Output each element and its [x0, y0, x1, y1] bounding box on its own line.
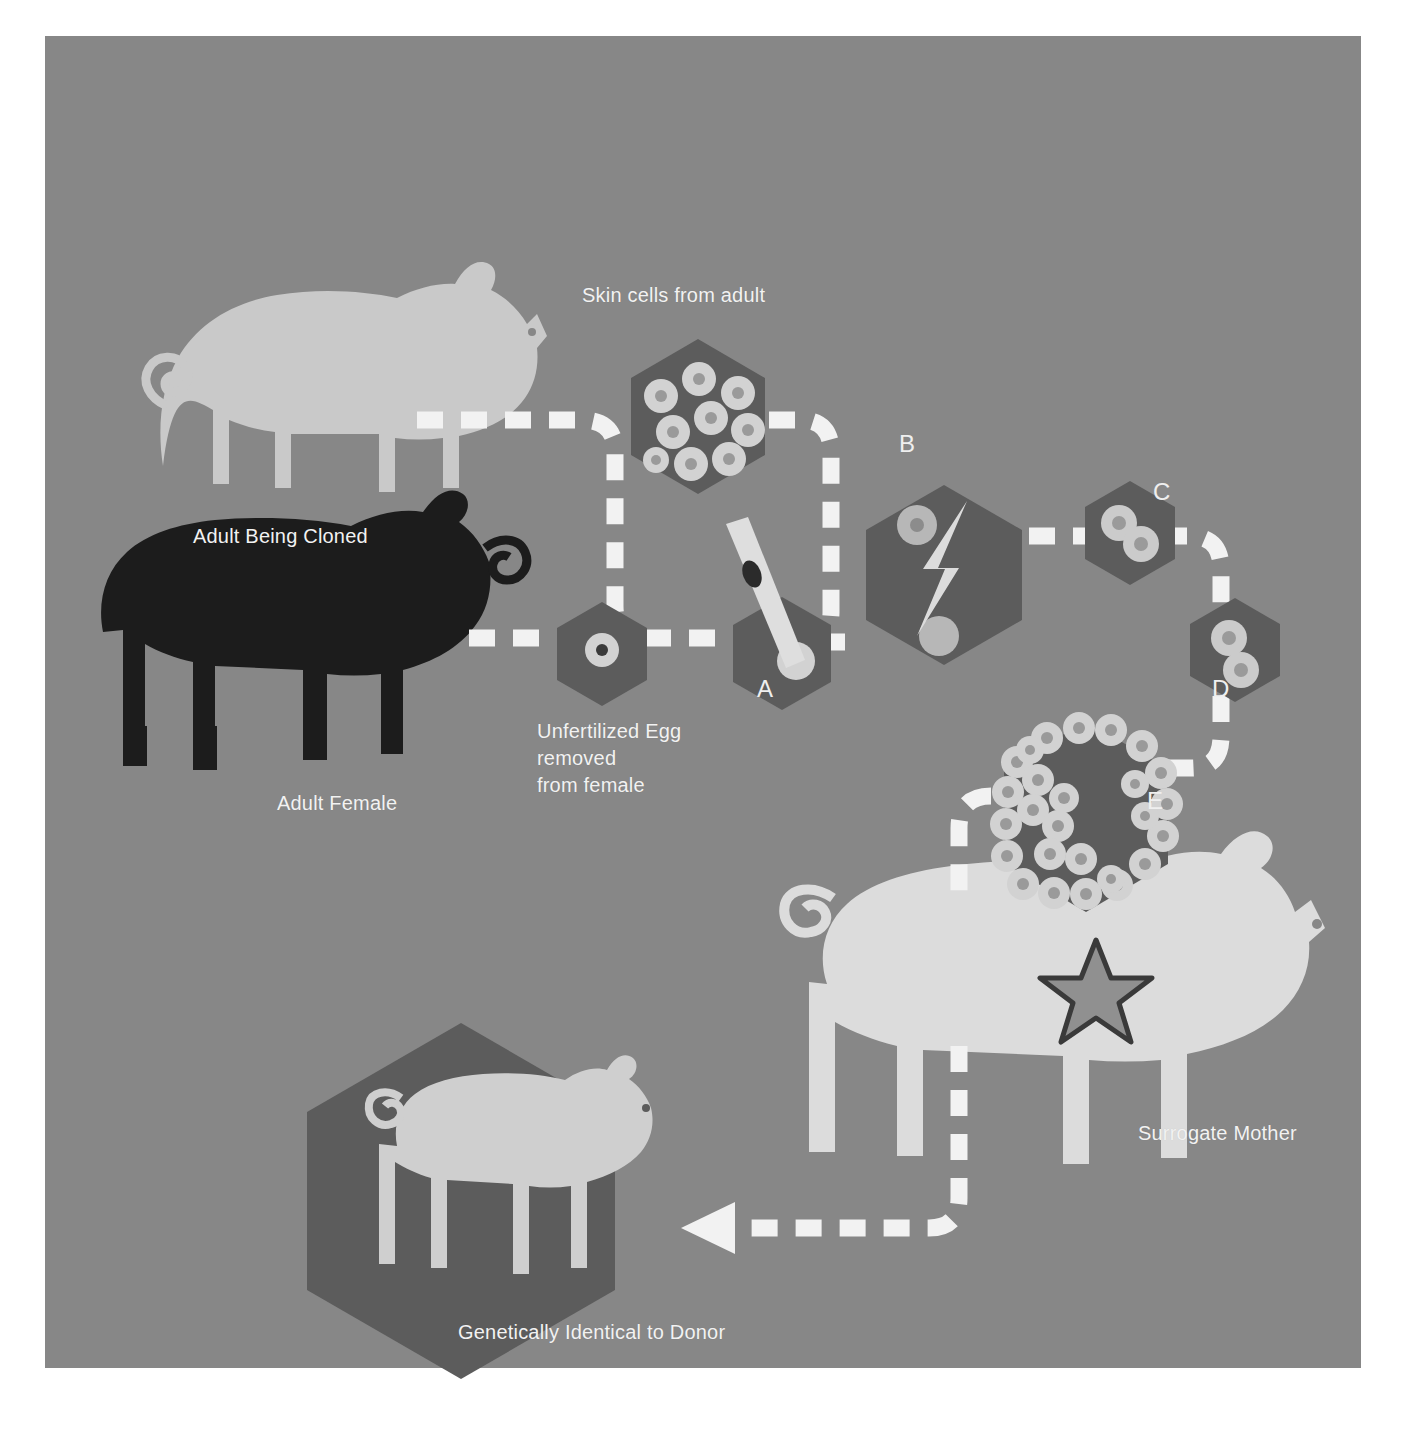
step-letter-b: B: [899, 431, 915, 457]
label-unfertilized-egg: Unfertilized Egg removed from female: [537, 718, 681, 799]
nuclear-transfer-hexagon: [726, 517, 831, 710]
four-cell-stage-hexagon: [1190, 598, 1280, 702]
diagram-canvas: Skin cells from adult Adult Being Cloned…: [45, 36, 1361, 1368]
step-letter-e: E: [1147, 788, 1163, 814]
label-adult-cloned: Adult Being Cloned: [193, 523, 368, 550]
adult-pig-being-cloned: [146, 262, 547, 492]
label-adult-female: Adult Female: [277, 790, 397, 817]
step-letter-c: C: [1153, 479, 1170, 505]
step-letter-d: D: [1212, 676, 1229, 702]
skin-cells-hexagon: [631, 339, 765, 494]
unfertilized-egg-hexagon: [557, 602, 647, 706]
diagram-stage: Skin cells from adult Adult Being Cloned…: [0, 0, 1406, 1449]
label-genetically-identical: Genetically Identical to Donor: [458, 1319, 725, 1346]
arrow-head-icon: [681, 1202, 735, 1254]
diagram-graphics: [45, 36, 1361, 1368]
path-twocell-to-fourcell: [1165, 696, 1221, 768]
label-skin-cells: Skin cells from adult: [582, 282, 765, 309]
path-surrogate-to-piglet: [729, 1046, 959, 1228]
electric-fusion-hexagon: [866, 485, 1022, 665]
step-letter-a: A: [757, 676, 773, 702]
label-surrogate-mother: Surrogate Mother: [1138, 1120, 1297, 1147]
